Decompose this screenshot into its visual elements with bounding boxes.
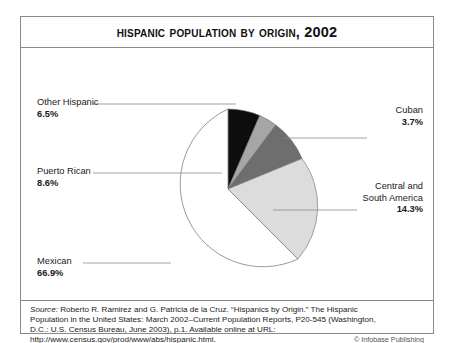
- callout-cuban: Cuban 3.7%: [396, 105, 423, 128]
- callout-label-central-south-america-line2: South America: [363, 193, 423, 203]
- callout-puerto-rican: Puerto Rican 8.6%: [37, 166, 91, 189]
- source-text: Source: Roberto R. Ramirez and G. Patric…: [30, 305, 424, 343]
- source-line-1-rest: Roberto R. Ramirez and G. Patricia de la…: [58, 305, 358, 314]
- source-line-1: Source: Roberto R. Ramirez and G. Patric…: [30, 305, 424, 315]
- plot-area: Other Hispanic 6.5% Puerto Rican 8.6% Me…: [21, 48, 433, 300]
- source-block: Source: Roberto R. Ramirez and G. Patric…: [21, 300, 433, 334]
- figure-frame: Hispanic Population by Origin, 2002 Othe…: [20, 16, 434, 334]
- callout-label-other-hispanic: Other Hispanic: [37, 97, 99, 107]
- callout-label-central-south-america-line1: Central and: [375, 181, 423, 191]
- source-url: http://www.census.gov/prod/www/abs/hispa…: [30, 335, 216, 343]
- callout-central-south-america: Central and South America 14.3%: [363, 181, 423, 216]
- callout-value-mexican: 66.9%: [37, 268, 72, 280]
- callout-label-cuban: Cuban: [396, 105, 423, 115]
- callout-label-puerto-rican: Puerto Rican: [37, 166, 91, 176]
- callout-value-other-hispanic: 6.5%: [37, 109, 99, 121]
- source-line-4-row: http://www.census.gov/prod/www/abs/hispa…: [30, 335, 424, 343]
- callout-label-mexican: Mexican: [37, 256, 72, 266]
- callout-value-central-south-america: 14.3%: [363, 204, 423, 216]
- title-band: Hispanic Population by Origin, 2002: [21, 17, 433, 48]
- source-label: Source:: [30, 305, 58, 314]
- callout-mexican: Mexican 66.9%: [37, 256, 72, 279]
- callout-other-hispanic: Other Hispanic 6.5%: [37, 97, 99, 120]
- source-line-2: Population in the United States: March 2…: [30, 315, 424, 325]
- callout-value-cuban: 3.7%: [396, 117, 423, 129]
- source-line-3: D.C.: U.S. Census Bureau, June 2003), p.…: [30, 325, 424, 335]
- callout-value-puerto-rican: 8.6%: [37, 178, 91, 190]
- page-title: Hispanic Population by Origin, 2002: [117, 24, 338, 40]
- publisher-credit: © Infobase Publishing: [346, 335, 424, 343]
